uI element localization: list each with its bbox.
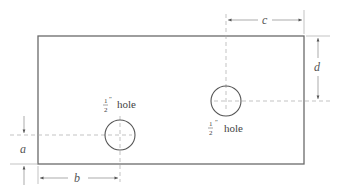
plate-diagram: a b c d 1 2 ″ hole 1 2 ″ hole — [0, 0, 338, 191]
right-hole-centerlines — [214, 14, 330, 112]
right-hole-frac-num: 1 — [209, 120, 213, 128]
right-hole-frac-den: 2 — [209, 129, 213, 137]
dimension-b: b — [40, 171, 118, 185]
left-hole-callout: 1 2 ″ hole — [103, 95, 136, 114]
right-hole-inch-mark: ″ — [215, 118, 218, 126]
right-hole-callout: 1 2 ″ hole — [208, 118, 243, 137]
dimension-c: c — [228, 13, 302, 27]
dimension-a: a — [20, 116, 26, 185]
left-hole-inch-mark: ″ — [109, 95, 112, 103]
left-hole-frac-den: 2 — [104, 106, 108, 114]
right-hole-label: hole — [224, 122, 243, 134]
dimension-d: d — [314, 38, 321, 99]
dimension-d-label: d — [314, 60, 321, 74]
left-hole-label: hole — [117, 98, 136, 110]
dimension-c-label: c — [262, 13, 268, 27]
left-hole-frac-num: 1 — [104, 97, 108, 105]
dimension-b-label: b — [74, 171, 80, 185]
plate-outline — [38, 36, 304, 164]
dimension-a-label: a — [20, 142, 26, 156]
